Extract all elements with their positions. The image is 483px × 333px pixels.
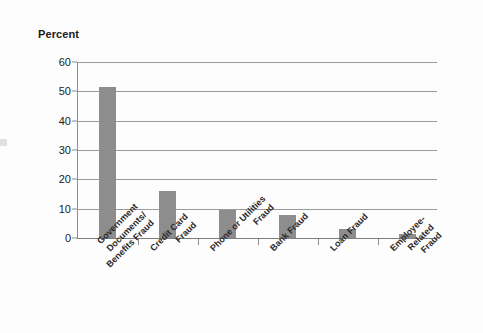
y-tick-label-40: 40: [31, 115, 71, 127]
x-tick-mark: [378, 239, 379, 245]
x-tick-mark: [138, 239, 139, 245]
y-tick-label-0: 0: [31, 232, 71, 244]
bar: [219, 210, 236, 238]
bar: [339, 229, 356, 238]
y-axis-title: Percent: [38, 28, 79, 40]
x-axis-tick-marks: [77, 239, 437, 246]
bar: [279, 215, 296, 238]
x-tick-mark: [198, 239, 199, 245]
gridline-10: [77, 209, 437, 210]
bar: [99, 87, 116, 238]
x-tick-mark: [258, 239, 259, 245]
chart-canvas: Percent 0102030405060 GovernmentDocument…: [0, 0, 483, 333]
scan-artifact: [0, 139, 7, 146]
gridline-20: [77, 179, 437, 180]
gridline-50: [77, 91, 437, 92]
y-tick-label-20: 20: [31, 173, 71, 185]
bar: [159, 191, 176, 238]
gridline-60: [77, 62, 437, 63]
gridline-30: [77, 150, 437, 151]
y-tick-label-10: 10: [31, 203, 71, 215]
plot-area: [77, 62, 437, 238]
x-tick-mark: [318, 239, 319, 245]
y-axis-tick-labels: 0102030405060: [31, 62, 71, 238]
bar: [399, 234, 416, 238]
gridline-40: [77, 121, 437, 122]
y-tick-label-30: 30: [31, 144, 71, 156]
y-tick-label-50: 50: [31, 85, 71, 97]
y-tick-label-60: 60: [31, 56, 71, 68]
